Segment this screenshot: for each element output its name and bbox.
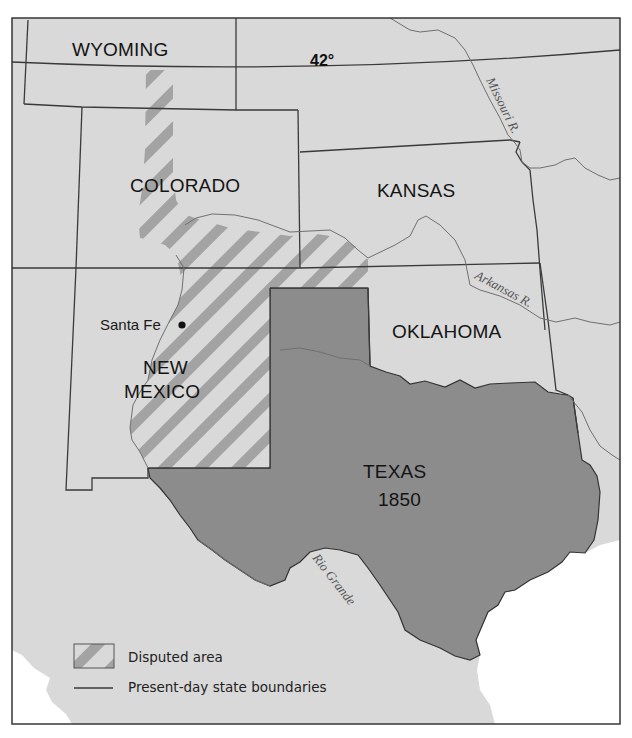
legend-hatch-swatch bbox=[74, 644, 114, 668]
label-new-mexico-1: NEW bbox=[143, 357, 188, 378]
label-new-mexico-2: MEXICO bbox=[124, 381, 200, 402]
santa-fe-marker-icon bbox=[178, 321, 185, 328]
texas-1850-map: WYOMING 42° COLORADO KANSAS OKLAHOMA NEW… bbox=[0, 0, 632, 738]
label-texas-year: 1850 bbox=[378, 489, 421, 510]
label-wyoming: WYOMING bbox=[72, 39, 168, 60]
label-42-degrees: 42° bbox=[310, 52, 334, 69]
label-kansas: KANSAS bbox=[377, 180, 455, 201]
label-oklahoma: OKLAHOMA bbox=[392, 321, 501, 342]
label-colorado: COLORADO bbox=[130, 175, 240, 196]
label-texas: TEXAS bbox=[363, 461, 426, 482]
legend-label-boundaries: Present-day state boundaries bbox=[128, 679, 327, 695]
label-santa-fe: Santa Fe bbox=[100, 316, 161, 333]
legend-label-disputed: Disputed area bbox=[128, 649, 223, 665]
